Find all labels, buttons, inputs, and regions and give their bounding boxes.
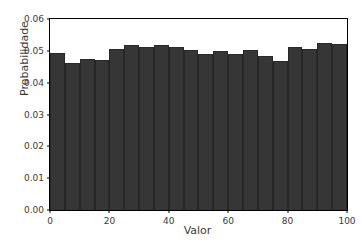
histogram-bar xyxy=(80,59,95,210)
histogram-bar xyxy=(302,49,317,210)
histogram-bar xyxy=(258,56,273,210)
y-tick-label: 0.02 xyxy=(24,141,50,151)
histogram-bar xyxy=(95,60,110,210)
histogram-bar xyxy=(288,47,303,210)
histogram-bar xyxy=(198,54,213,210)
histogram-bar xyxy=(139,47,154,210)
histogram-bar xyxy=(184,50,199,210)
histogram-bar xyxy=(169,47,184,210)
y-tick-label: 0.01 xyxy=(24,173,50,183)
histogram-bar xyxy=(317,43,332,210)
y-axis-label: Probabilidade xyxy=(18,0,31,129)
histogram-bar xyxy=(243,50,258,210)
plot-area: 0.000.010.020.030.040.050.06 02040608010… xyxy=(49,18,348,211)
histogram-bar xyxy=(228,54,243,210)
histogram-bar xyxy=(273,61,288,210)
histogram-bar xyxy=(213,51,228,210)
histogram-bar xyxy=(109,49,124,210)
histogram-bar xyxy=(332,44,347,210)
histogram-bar xyxy=(65,63,80,210)
histogram-bar xyxy=(124,45,139,210)
bar-series xyxy=(50,19,347,210)
y-tick-label: 0.00 xyxy=(24,205,50,215)
histogram-bar xyxy=(154,45,169,210)
histogram-figure: 0.000.010.020.030.040.050.06 02040608010… xyxy=(0,0,363,247)
x-axis-label: Valor xyxy=(49,224,346,237)
histogram-bar xyxy=(50,53,65,210)
